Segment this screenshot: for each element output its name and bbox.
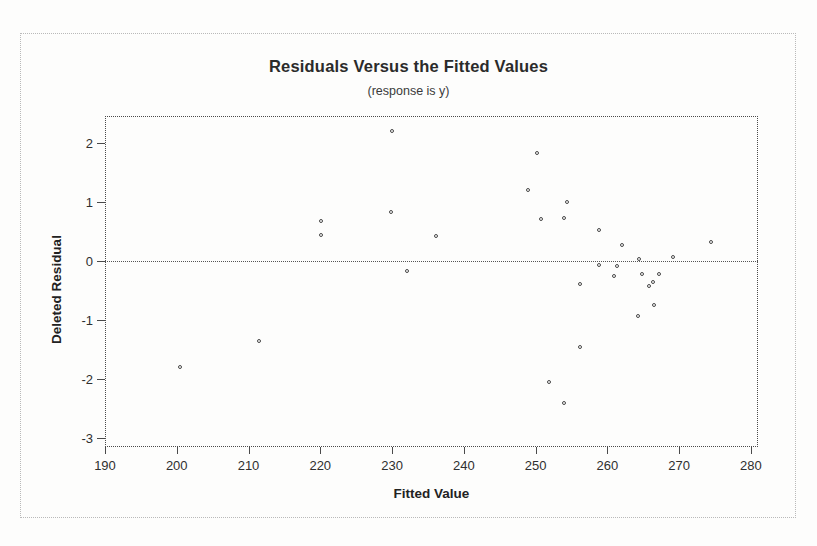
data-point	[708, 239, 714, 245]
data-point	[596, 262, 602, 268]
data-point	[636, 256, 642, 262]
x-axis-tick	[679, 447, 680, 454]
x-axis-tick-label: 220	[290, 458, 350, 473]
data-point	[656, 271, 662, 277]
y-axis-tick-label: 2	[53, 135, 93, 150]
data-point	[256, 338, 262, 344]
x-axis-tick	[320, 447, 321, 454]
x-axis-tick	[177, 447, 178, 454]
data-point	[577, 344, 583, 350]
x-axis-tick-label: 240	[434, 458, 494, 473]
x-axis-tick	[249, 447, 250, 454]
chart-subtitle: (response is y)	[0, 84, 817, 98]
data-point	[433, 233, 439, 239]
y-axis-tick-label: 1	[53, 194, 93, 209]
y-axis-tick	[97, 379, 105, 380]
data-point	[614, 263, 620, 269]
zero-reference-line	[105, 261, 758, 262]
plot-area	[105, 116, 758, 447]
x-axis-tick-label: 210	[219, 458, 279, 473]
data-point	[650, 279, 656, 285]
chart-title: Residuals Versus the Fitted Values	[0, 57, 817, 76]
data-point	[611, 273, 617, 279]
x-axis-tick-label: 200	[147, 458, 207, 473]
x-axis-tick-label: 260	[577, 458, 637, 473]
data-point	[404, 268, 410, 274]
x-axis-tick	[464, 447, 465, 454]
data-point	[538, 216, 544, 222]
y-axis-tick-label: -1	[53, 312, 93, 327]
y-axis-tick-label: 0	[53, 253, 93, 268]
y-axis-tick-label: -3	[53, 431, 93, 446]
x-axis-tick-label: 190	[75, 458, 135, 473]
data-point	[596, 227, 602, 233]
x-axis-tick	[751, 447, 752, 454]
data-point	[389, 128, 395, 134]
data-point	[561, 215, 567, 221]
y-axis-tick-label: -2	[53, 372, 93, 387]
data-point	[388, 209, 394, 215]
data-point	[318, 218, 324, 224]
data-point	[177, 364, 183, 370]
data-point	[635, 313, 641, 319]
x-axis-tick	[536, 447, 537, 454]
data-point	[525, 187, 531, 193]
y-axis-tick	[97, 261, 105, 262]
x-axis-label: Fitted Value	[105, 486, 758, 501]
x-axis-tick	[105, 447, 106, 454]
data-point	[577, 281, 583, 287]
data-point	[318, 232, 324, 238]
data-point	[670, 254, 676, 260]
data-point	[546, 379, 552, 385]
x-axis-tick-label: 230	[362, 458, 422, 473]
y-axis-label: Deleted Residual	[49, 190, 64, 390]
x-axis-tick	[392, 447, 393, 454]
y-axis-tick	[97, 320, 105, 321]
data-point	[561, 400, 567, 406]
data-point	[619, 242, 625, 248]
y-axis-tick	[97, 143, 105, 144]
data-point	[639, 271, 645, 277]
y-axis-tick	[97, 438, 105, 439]
x-axis-tick-label: 270	[649, 458, 709, 473]
data-point	[564, 199, 570, 205]
y-axis-tick	[97, 202, 105, 203]
data-point	[651, 302, 657, 308]
x-axis-tick	[607, 447, 608, 454]
residual-plot-figure: Residuals Versus the Fitted Values (resp…	[0, 0, 817, 546]
data-point	[534, 150, 540, 156]
x-axis-tick-label: 280	[721, 458, 781, 473]
x-axis-tick-label: 250	[506, 458, 566, 473]
